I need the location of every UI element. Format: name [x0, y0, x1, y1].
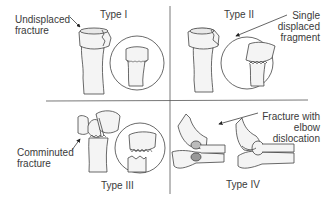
- type-4-annotation-line-3: dislocation: [250, 133, 320, 144]
- type-2-label: Type II: [224, 9, 254, 20]
- type-2-annotation-line-3: fragment: [270, 32, 320, 43]
- type-2-annotation-line-1: Single: [270, 10, 320, 21]
- type-3-annotation: Comminuted fracture: [17, 147, 74, 169]
- fracture-classification-diagram: Type I Undisplaced fracture Type II Sing…: [0, 0, 334, 208]
- type-4-annotation-line-1: Fracture with: [250, 111, 320, 122]
- type-1-bone-illustration: [79, 28, 111, 94]
- type-2-magnified-view: [221, 37, 275, 89]
- type-3-bone-illustration: [78, 111, 120, 172]
- horizontal-divider: [46, 100, 308, 101]
- type-1-annotation: Undisplaced fracture: [15, 14, 70, 36]
- type-3-annotation-line-1: Comminuted: [17, 147, 74, 158]
- type-2-annotation: Single displaced fragment: [270, 10, 320, 43]
- type-2-bone-illustration: [188, 28, 219, 92]
- type-3-label: Type III: [101, 180, 134, 191]
- type-2-annotation-line-2: displaced: [270, 21, 320, 32]
- type-4-annotation: Fracture with elbow dislocation: [250, 111, 320, 144]
- type-4-dislocated-elbow-illustration: [172, 114, 225, 168]
- type-4-label: Type IV: [226, 179, 260, 190]
- type-1-label: Type I: [100, 9, 127, 20]
- type-4-annotation-line-2: elbow: [250, 122, 320, 133]
- type-3-annotation-line-2: fracture: [17, 158, 74, 169]
- type-3-magnified-view: [115, 123, 165, 173]
- type-1-annotation-line-2: fracture: [15, 25, 70, 36]
- type-1-pointer-arrow: [70, 17, 80, 27]
- type-1-annotation-line-1: Undisplaced: [15, 14, 70, 25]
- type-1-magnified-view: [110, 36, 164, 90]
